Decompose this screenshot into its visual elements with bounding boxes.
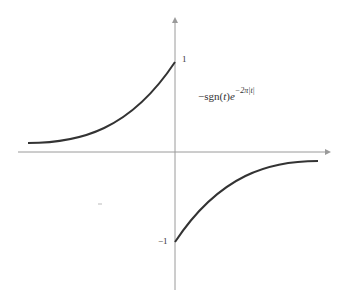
plot-area xyxy=(0,0,344,298)
formula-prefix: −sgn( xyxy=(198,90,223,102)
function-label: −sgn(t)e−2π|t| xyxy=(198,88,255,102)
curve-left-branch xyxy=(28,62,175,143)
curve-right-branch xyxy=(175,161,318,242)
y-tick-label-1: 1 xyxy=(182,54,187,64)
formula-exponent: −2π|t| xyxy=(235,86,255,95)
y-tick-label-minus-1: −1 xyxy=(158,236,168,246)
chart-canvas: 1 −1 −sgn(t)e−2π|t| xyxy=(0,0,344,298)
